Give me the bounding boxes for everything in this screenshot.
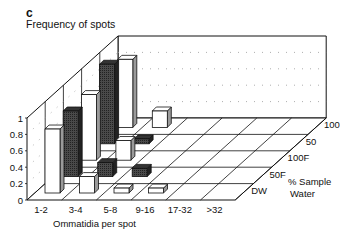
bar	[80, 173, 99, 193]
bar-top	[98, 159, 117, 163]
bar-front	[100, 64, 115, 144]
x-tick-label: >32	[206, 204, 222, 215]
bar-front	[132, 168, 147, 176]
x-tick-label: 3-4	[69, 204, 83, 215]
bar-front	[80, 177, 95, 193]
bar	[100, 60, 119, 144]
y-tick-label: 0	[18, 195, 23, 206]
depth-tick-label: DW	[251, 185, 267, 196]
bar-front	[45, 129, 60, 193]
y-tick-label: 0.8	[10, 129, 23, 140]
bar-front	[152, 111, 167, 127]
back-wall	[118, 36, 326, 118]
bar	[45, 125, 64, 193]
bar-front	[98, 163, 113, 177]
y-tick-label: 0.2	[10, 178, 23, 189]
bar-front	[116, 141, 131, 161]
bar-front	[118, 59, 133, 127]
bar-top	[152, 107, 171, 111]
x-tick-label: 1-2	[34, 204, 48, 215]
bar-top	[118, 55, 137, 59]
bar	[134, 135, 153, 144]
bar-side	[133, 55, 137, 127]
depth-tick-label: 100	[324, 119, 340, 130]
bar	[63, 107, 82, 177]
bar-side	[115, 60, 119, 144]
chart-3d-bar: 00.20.40.60.811-23-45-89-1617-32>32DW50F…	[0, 0, 349, 242]
bar	[152, 107, 171, 127]
bar-front	[81, 95, 96, 161]
bar-top	[116, 137, 135, 141]
depth-tick-label: 50	[306, 136, 317, 147]
bar-top	[80, 173, 99, 177]
bar-top	[134, 135, 153, 139]
depth-tick-label: 100F	[288, 152, 310, 163]
x-tick-label: 5-8	[104, 204, 118, 215]
bar	[149, 184, 168, 193]
bar-top	[149, 184, 168, 188]
y-tick-label: 1	[18, 113, 23, 124]
bar	[118, 55, 137, 127]
x-axis-title: Ommatidia per spot	[53, 218, 136, 229]
bar-top	[132, 164, 151, 168]
bar-top	[45, 125, 64, 129]
z-axis-title-line1: % Sample	[288, 176, 331, 187]
bar-side	[96, 91, 100, 161]
bar-top	[63, 107, 82, 111]
figure: c Frequency of spots 00.20.40.60.811-23-…	[0, 0, 349, 242]
bar-top	[81, 91, 100, 95]
x-tick-label: 17-32	[168, 204, 192, 215]
bar	[116, 137, 135, 161]
bar	[98, 159, 117, 177]
bar-top	[100, 60, 119, 64]
y-tick-label: 0.6	[10, 145, 23, 156]
bar-top	[114, 184, 133, 188]
bar-front	[149, 188, 164, 193]
y-tick-label: 0.4	[10, 162, 23, 173]
bar	[132, 164, 151, 176]
x-tick-label: 9-16	[136, 204, 155, 215]
bar-front	[63, 111, 78, 177]
bar	[81, 91, 100, 161]
bar-front	[134, 139, 149, 144]
bar	[114, 184, 133, 193]
bar-front	[114, 188, 129, 193]
depth-tick-label: 50F	[269, 169, 286, 180]
bar-side	[78, 107, 82, 177]
bar-side	[60, 125, 64, 193]
z-axis-title-line2: Water	[290, 188, 315, 199]
